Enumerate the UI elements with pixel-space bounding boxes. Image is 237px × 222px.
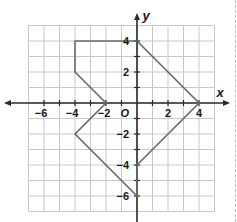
- coordinate-plane: −6−4−22442−2−4−6Oxy: [0, 0, 237, 222]
- x-tick-label: −4: [66, 107, 79, 119]
- x-axis-right-arrow-icon: [223, 100, 230, 106]
- y-axis-label: y: [141, 8, 150, 23]
- x-axis-left-arrow-icon: [4, 100, 11, 106]
- y-tick-label: 2: [123, 66, 129, 78]
- x-axis-label: x: [215, 85, 224, 100]
- x-tick-label: −6: [35, 107, 48, 119]
- x-tick-label: −2: [98, 107, 111, 119]
- origin-label: O: [120, 107, 129, 119]
- y-tick-label: −4: [116, 159, 129, 171]
- page-dashed-edge: [235, 0, 236, 222]
- y-axis-up-arrow-icon: [134, 13, 140, 20]
- y-tick-label: −6: [116, 190, 129, 202]
- x-tick-label: 4: [196, 107, 203, 119]
- x-tick-label: 2: [165, 107, 171, 119]
- y-tick-label: 4: [123, 35, 130, 47]
- y-tick-label: −2: [116, 128, 129, 140]
